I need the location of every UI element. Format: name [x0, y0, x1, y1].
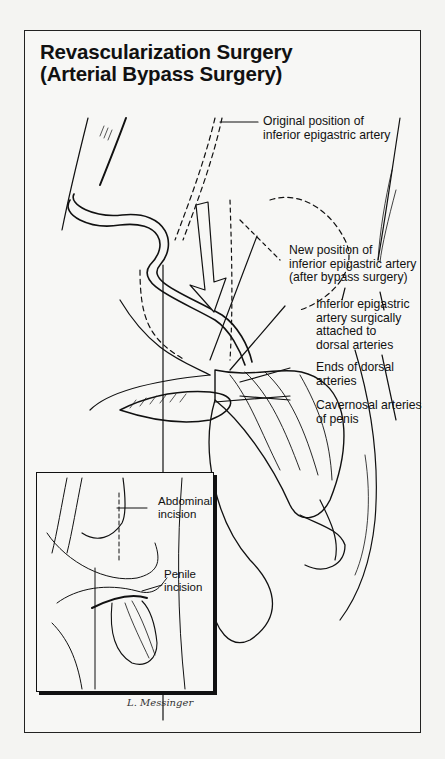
label-attached-dorsal: Inferior epigastric artery surgically at…	[316, 298, 409, 352]
label-cavernosal: Cavernosal arteries of penis	[316, 399, 422, 426]
label-abdominal-incision: Abdominal incision	[158, 495, 212, 521]
label-dorsal-ends: Ends of dorsal arteries	[316, 361, 394, 388]
label-new-position: New position of inferior epigastric arte…	[289, 244, 416, 285]
label-original-position: Original position of inferior epigastric…	[263, 115, 390, 142]
artist-signature: L. Messinger	[127, 697, 193, 708]
label-penile-incision: Penile incision	[164, 568, 202, 594]
inset-diagram: Abdominal incision Penile incision	[36, 472, 214, 692]
